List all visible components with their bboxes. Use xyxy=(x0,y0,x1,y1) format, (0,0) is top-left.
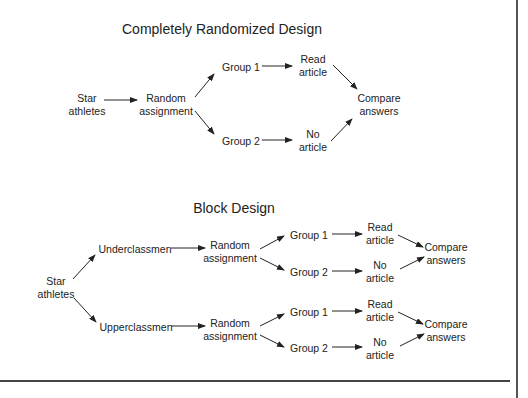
crd-population-node: Star athletes xyxy=(69,92,106,117)
node-line: Random xyxy=(139,92,193,105)
block2-group2-node: Group 2 xyxy=(290,342,328,355)
arrow-random2-to-group1 xyxy=(260,314,284,326)
node-line: article xyxy=(366,233,394,246)
arrow-random1-to-group1 xyxy=(260,236,284,249)
node-line: Compare xyxy=(357,92,400,105)
node-line: athletes xyxy=(69,104,106,117)
block1-group1-node: Group 1 xyxy=(290,229,328,242)
crd-random-assignment-node: Random assignment xyxy=(139,92,193,117)
block-title: Block Design xyxy=(193,200,275,216)
arrow-random-to-group2 xyxy=(195,111,214,134)
node-line: Random xyxy=(203,317,257,330)
node-line: No xyxy=(366,259,394,272)
block1-random-assignment-node: Random assignment xyxy=(203,239,257,264)
node-line: answers xyxy=(357,104,400,117)
crd-title: Completely Randomized Design xyxy=(122,21,322,37)
arrow-b1-no-to-compare xyxy=(400,257,424,269)
bottom-divider xyxy=(0,380,510,382)
arrow-read-to-compare xyxy=(333,65,357,89)
node-line: Read xyxy=(366,221,394,234)
node-line: article xyxy=(366,310,394,323)
node-line: Read xyxy=(299,53,327,66)
block1-treatment2-node: No article xyxy=(366,259,394,284)
node-line: article xyxy=(299,65,327,78)
node-line: Compare xyxy=(424,318,467,331)
node-line: Compare xyxy=(424,241,467,254)
crd-treatment2-node: No article xyxy=(299,128,327,153)
arrow-b1-read-to-compare xyxy=(398,235,423,247)
arrow-no-to-compare xyxy=(331,119,352,141)
arrow-random-to-group1 xyxy=(195,74,214,97)
right-border xyxy=(516,0,518,398)
arrow-b2-read-to-compare xyxy=(398,312,423,324)
block1-treatment1-node: Read article xyxy=(366,221,394,246)
node-line: assignment xyxy=(203,251,257,264)
block1-compare-node: Compare answers xyxy=(424,241,467,266)
node-line: article xyxy=(366,348,394,361)
node-line: article xyxy=(299,140,327,153)
block-underclassmen-node: Underclassmen xyxy=(99,243,172,256)
block1-group2-node: Group 2 xyxy=(290,266,328,279)
block2-compare-node: Compare answers xyxy=(424,318,467,343)
arrow-star-to-upper xyxy=(74,298,96,322)
crd-group1-node: Group 1 xyxy=(222,61,260,74)
crd-group2-node: Group 2 xyxy=(222,135,260,148)
arrow-star-to-under xyxy=(73,255,95,279)
node-line: No xyxy=(366,336,394,349)
node-line: article xyxy=(366,271,394,284)
crd-treatment1-node: Read article xyxy=(299,53,327,78)
block-upperclassmen-node: Upperclassmen xyxy=(100,321,173,334)
node-line: assignment xyxy=(139,104,193,117)
arrow-random2-to-group2 xyxy=(260,335,284,347)
block2-treatment1-node: Read article xyxy=(366,298,394,323)
block2-random-assignment-node: Random assignment xyxy=(203,317,257,342)
node-line: No xyxy=(299,128,327,141)
node-line: Star xyxy=(38,275,75,288)
node-line: Read xyxy=(366,298,394,311)
arrow-random1-to-group2 xyxy=(260,258,284,270)
block-population-node: Star athletes xyxy=(38,275,75,300)
node-line: answers xyxy=(424,330,467,343)
node-line: Random xyxy=(203,239,257,252)
crd-compare-node: Compare answers xyxy=(357,92,400,117)
block2-treatment2-node: No article xyxy=(366,336,394,361)
node-line: assignment xyxy=(203,329,257,342)
node-line: athletes xyxy=(38,287,75,300)
node-line: answers xyxy=(424,253,467,266)
node-line: Star xyxy=(69,92,106,105)
block2-group1-node: Group 1 xyxy=(290,306,328,319)
arrow-b2-no-to-compare xyxy=(400,334,424,346)
